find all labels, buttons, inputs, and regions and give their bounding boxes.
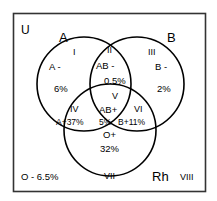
set-label-a: A (59, 31, 68, 45)
region-label-roman-iii: III (148, 48, 156, 57)
region-viii-blood-type: O - 6.5% (21, 172, 59, 182)
region-label-roman-vii: VII (104, 172, 115, 181)
region-label-roman-viii: VIII (180, 173, 194, 182)
set-label-rh: Rh (152, 170, 169, 184)
region-vi-blood-type: B+11% (118, 118, 145, 127)
region-vii-blood-type: O+ (103, 130, 116, 140)
region-iii-percent: 2% (157, 84, 171, 94)
region-v-percent: 5% (99, 118, 111, 127)
region-i-blood-type: A - (49, 62, 61, 72)
region-ii-blood-type: AB - (96, 61, 114, 71)
region-label-roman-vi: VI (134, 105, 143, 114)
region-label-roman-iv: IV (70, 105, 79, 114)
region-label-roman-ii: II (107, 46, 112, 55)
region-i-percent: 6% (54, 84, 68, 94)
universe-label: U (21, 24, 30, 37)
region-ii-percent: 0.5% (104, 76, 126, 86)
region-iv-blood-type: A+37% (56, 118, 84, 127)
region-label-roman-v: V (112, 92, 118, 101)
region-label-roman-i: I (73, 48, 76, 57)
set-label-b: B (167, 31, 176, 45)
universe-frame (14, 14, 206, 192)
venn-diagram-canvas: U A B Rh I A - 6% II AB - 0.5% III B - 2… (0, 0, 217, 201)
region-v-blood-type: AB+ (99, 105, 117, 115)
region-iii-blood-type: B - (155, 62, 167, 72)
region-vii-percent: 32% (100, 144, 119, 154)
